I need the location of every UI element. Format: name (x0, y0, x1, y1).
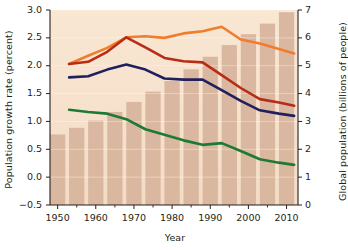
y-axis-left-title: Population growth rate (percent) (3, 30, 14, 190)
bar (241, 34, 256, 205)
x-axis-tick-label: 2000 (228, 212, 268, 223)
x-axis-tick-label: 1990 (190, 212, 230, 223)
bar (260, 24, 275, 205)
y-axis-left-tick-label: 3.0 (12, 4, 42, 15)
x-axis-tick-label: 2010 (267, 212, 307, 223)
y-axis-left-tick-label: 1.0 (12, 115, 42, 126)
y-axis-left-tick-label: 0.0 (12, 171, 42, 182)
y-axis-right-tick-label: 5 (305, 59, 325, 70)
y-axis-right-tick-label: 7 (305, 4, 325, 15)
bar (145, 92, 160, 205)
bar (164, 81, 179, 205)
bar (203, 57, 218, 205)
x-axis-tick-label: 1960 (76, 212, 116, 223)
bar (107, 112, 122, 205)
x-axis-tick-label: 1970 (114, 212, 154, 223)
y-axis-right-tick-label: 4 (305, 87, 325, 98)
y-axis-right-tick-label: 2 (305, 143, 325, 154)
bar (88, 121, 103, 205)
y-axis-left-tick-label: 2.0 (12, 59, 42, 70)
bar (184, 69, 199, 205)
bar (126, 102, 141, 205)
y-axis-right-title: Global population (billions of people) (337, 22, 348, 202)
bar (279, 12, 294, 205)
y-axis-right-tick-label: 6 (305, 31, 325, 42)
x-axis-tick-label: 1950 (38, 212, 78, 223)
y-axis-left-tick-label: 2.5 (12, 31, 42, 42)
bar (69, 128, 84, 205)
x-axis-tick-label: 1980 (152, 212, 192, 223)
bar (222, 45, 237, 205)
y-axis-left-tick-label: 1.5 (12, 87, 42, 98)
y-axis-left-tick-label: −0.5 (12, 199, 42, 210)
bar (50, 135, 65, 205)
x-axis-title: Year (120, 232, 230, 243)
y-axis-right-tick-label: 1 (305, 171, 325, 182)
y-axis-right-tick-label: 0 (305, 199, 325, 210)
y-axis-right-tick-label: 3 (305, 115, 325, 126)
y-axis-left-tick-label: 0.5 (12, 143, 42, 154)
